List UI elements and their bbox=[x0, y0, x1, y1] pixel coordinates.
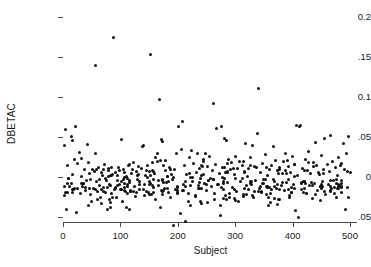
data-point bbox=[138, 183, 141, 186]
data-point bbox=[340, 182, 343, 185]
data-point bbox=[257, 87, 260, 90]
data-point bbox=[202, 173, 205, 176]
data-point bbox=[151, 161, 154, 164]
data-point bbox=[154, 198, 157, 201]
data-point bbox=[189, 204, 192, 207]
data-point bbox=[204, 152, 207, 155]
data-point bbox=[238, 160, 241, 163]
data-point bbox=[152, 178, 155, 181]
data-point bbox=[133, 185, 136, 188]
data-point bbox=[136, 174, 139, 177]
data-point bbox=[307, 161, 310, 164]
data-point bbox=[192, 162, 195, 165]
data-point bbox=[335, 178, 338, 181]
data-point bbox=[247, 167, 250, 170]
data-point bbox=[249, 164, 252, 167]
data-point bbox=[161, 193, 164, 196]
data-point bbox=[157, 184, 160, 187]
data-point bbox=[190, 149, 193, 152]
data-point bbox=[138, 188, 141, 191]
data-point bbox=[277, 172, 280, 175]
data-point bbox=[280, 184, 283, 187]
data-point bbox=[76, 162, 79, 165]
data-point bbox=[213, 192, 216, 195]
data-point bbox=[82, 182, 85, 185]
data-point bbox=[264, 153, 267, 156]
data-point bbox=[293, 187, 296, 190]
data-point bbox=[212, 178, 215, 181]
data-point bbox=[251, 144, 254, 147]
data-point bbox=[116, 179, 119, 182]
data-point bbox=[333, 186, 336, 189]
data-point bbox=[87, 204, 90, 207]
data-point bbox=[94, 152, 97, 155]
data-point bbox=[319, 185, 322, 188]
data-point bbox=[162, 181, 165, 184]
data-point bbox=[342, 142, 345, 145]
data-point bbox=[227, 158, 230, 161]
data-point bbox=[329, 134, 332, 137]
data-point bbox=[112, 36, 115, 39]
data-point bbox=[317, 171, 320, 174]
data-point bbox=[285, 181, 288, 184]
data-point bbox=[149, 174, 152, 177]
data-point bbox=[86, 143, 89, 146]
data-point bbox=[287, 165, 290, 168]
data-point bbox=[152, 191, 155, 194]
data-point bbox=[125, 206, 128, 209]
x-tick-mark bbox=[120, 222, 121, 227]
data-point bbox=[236, 167, 239, 170]
data-point bbox=[102, 168, 105, 171]
data-point bbox=[89, 193, 92, 196]
data-point bbox=[173, 168, 176, 171]
data-point bbox=[88, 187, 91, 190]
data-point bbox=[98, 184, 101, 187]
data-point bbox=[67, 177, 70, 180]
data-point bbox=[233, 173, 236, 176]
data-point bbox=[228, 196, 231, 199]
data-point bbox=[226, 171, 229, 174]
data-point bbox=[329, 190, 332, 193]
data-point bbox=[166, 175, 169, 178]
data-point bbox=[156, 160, 159, 163]
data-point bbox=[309, 172, 312, 175]
data-point bbox=[111, 196, 114, 199]
data-point bbox=[109, 174, 112, 177]
data-point bbox=[347, 135, 350, 138]
data-point bbox=[184, 185, 187, 188]
data-point bbox=[188, 156, 191, 159]
data-point bbox=[159, 206, 162, 209]
data-point bbox=[336, 174, 339, 177]
data-point bbox=[222, 188, 225, 191]
data-point bbox=[179, 212, 182, 215]
data-point bbox=[274, 159, 277, 162]
data-point bbox=[223, 166, 226, 169]
data-point bbox=[259, 171, 262, 174]
data-point bbox=[245, 193, 248, 196]
data-point bbox=[94, 188, 97, 191]
data-point bbox=[346, 170, 349, 173]
data-point bbox=[95, 168, 98, 171]
data-point bbox=[323, 137, 326, 140]
data-point bbox=[187, 200, 190, 203]
data-point bbox=[321, 185, 324, 188]
data-point bbox=[98, 178, 101, 181]
x-tick-mark bbox=[293, 222, 294, 227]
data-point bbox=[233, 188, 236, 191]
data-point bbox=[293, 175, 296, 178]
data-point bbox=[333, 192, 336, 195]
data-point bbox=[234, 177, 237, 180]
data-point bbox=[78, 151, 81, 154]
data-point bbox=[260, 190, 263, 193]
data-point bbox=[87, 161, 90, 164]
data-point bbox=[195, 171, 198, 174]
data-point bbox=[289, 171, 292, 174]
data-point bbox=[99, 196, 102, 199]
data-point bbox=[71, 191, 74, 194]
data-point bbox=[312, 165, 315, 168]
data-point bbox=[269, 201, 272, 204]
data-point bbox=[253, 190, 256, 193]
data-point bbox=[146, 164, 149, 167]
data-point bbox=[143, 194, 146, 197]
data-point bbox=[131, 168, 134, 171]
